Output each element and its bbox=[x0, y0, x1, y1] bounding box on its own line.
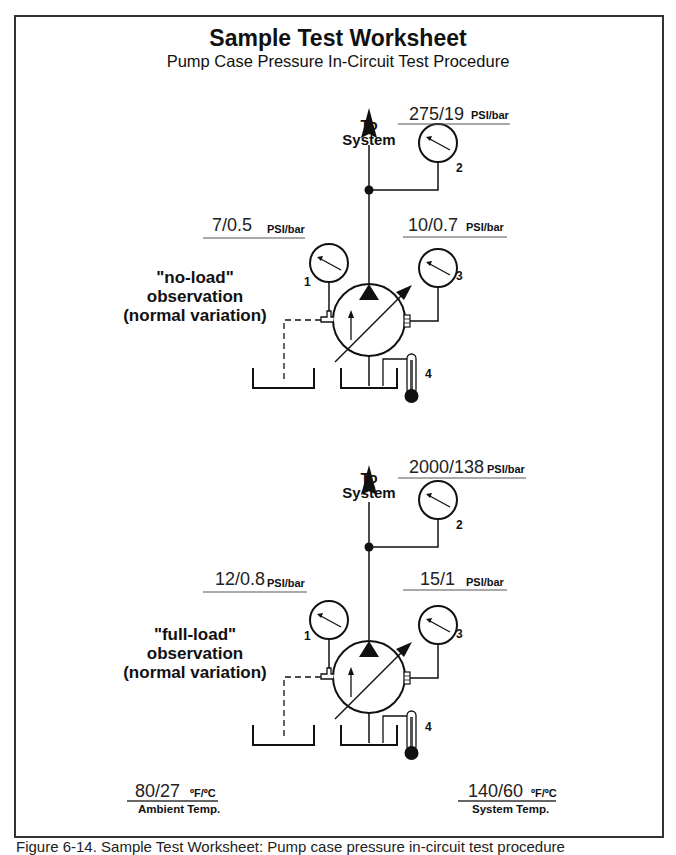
gauge-unit: PSI/bar bbox=[471, 109, 510, 121]
gauge-unit: PSI/bar bbox=[466, 221, 505, 233]
gauge-1-reading: 12/0.8 PSI/bar bbox=[203, 569, 307, 592]
gauge-unit: PSI/bar bbox=[267, 223, 306, 235]
gauge-value: 15/1 bbox=[420, 569, 455, 589]
thermometer-number: 4 bbox=[425, 367, 432, 381]
gauge-value: 12/0.8 bbox=[215, 569, 265, 589]
system-temp-label: System Temp. bbox=[472, 803, 549, 815]
full-load-circuit: 2000/138 PSI/bar 12/0.8 PSI/bar 15/1 PSI… bbox=[203, 457, 526, 760]
figure-caption: Figure 6-14. Sample Test Worksheet: Pump… bbox=[16, 838, 565, 855]
gauge-number: 3 bbox=[456, 627, 463, 641]
gauge-number: 1 bbox=[304, 629, 311, 643]
gauge-number: 1 bbox=[304, 275, 311, 289]
system-temp-value: 140/60 bbox=[468, 781, 523, 801]
ambient-temp-label: Ambient Temp. bbox=[138, 803, 220, 815]
ambient-temp-value: 80/27 bbox=[135, 781, 180, 801]
system-temp-unit: ºF/ºC bbox=[531, 787, 557, 799]
gauge-number: 3 bbox=[456, 269, 463, 283]
system-temp: 140/60 ºF/ºC System Temp. bbox=[458, 781, 557, 815]
gauge-value: 2000/138 bbox=[409, 457, 484, 477]
gauge-unit: PSI/bar bbox=[267, 577, 306, 589]
gauge-value: 7/0.5 bbox=[212, 215, 252, 235]
gauge-unit: PSI/bar bbox=[487, 463, 526, 475]
gauge-number: 2 bbox=[456, 161, 463, 175]
gauge-unit: PSI/bar bbox=[466, 576, 505, 588]
gauge-3-reading: 15/1 PSI/bar bbox=[403, 569, 507, 590]
gauge-1-reading: 7/0.5 PSI/bar bbox=[203, 215, 306, 238]
gauge-value: 275/19 bbox=[409, 104, 464, 124]
ambient-temp: 80/27 ºF/ºC Ambient Temp. bbox=[127, 781, 220, 815]
gauge-2-reading: 275/19 PSI/bar bbox=[398, 104, 510, 124]
ambient-temp-unit: ºF/ºC bbox=[190, 787, 216, 799]
gauge-2-reading: 2000/138 PSI/bar bbox=[398, 457, 526, 478]
gauge-number: 2 bbox=[456, 518, 463, 532]
pump-circuit bbox=[253, 108, 457, 403]
gauge-3-reading: 10/0.7 PSI/bar bbox=[403, 215, 507, 237]
to-system-label: System bbox=[342, 131, 395, 148]
no-load-circuit: 275/19 PSI/bar 7/0.5 PSI/bar 10/0.7 PSI/… bbox=[203, 104, 510, 403]
gauge-value: 10/0.7 bbox=[408, 215, 458, 235]
to-system-label: System bbox=[342, 484, 395, 501]
thermometer-number: 4 bbox=[425, 720, 432, 734]
pump-circuit bbox=[253, 465, 457, 760]
